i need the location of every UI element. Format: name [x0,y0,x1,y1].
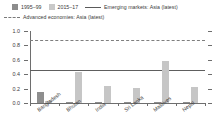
legend-item-emerging-markets: Emerging markets: Asia (latest) [85,4,178,10]
legend-label-emerging-markets: Emerging markets: Asia (latest) [104,4,178,10]
legend-item-advanced-economies: Advanced economies: Asia (latest) [4,14,104,20]
legend-solid-line-icon [85,7,101,8]
reference-line-advanced-economies [30,40,205,41]
x-tick-mark [88,103,89,106]
y-tick-mark-right [208,31,212,32]
x-tick-mark [205,103,206,106]
y-tick-mark-right [208,45,212,46]
y-tick-label: 0.8 [6,42,20,48]
legend-row-2: Advanced economies: Asia (latest) [4,14,111,20]
legend-row-1: 1995–99 2015–17 Emerging markets: Asia (… [12,4,185,10]
y-tick-mark [24,31,28,32]
y-tick-mark-right [208,60,212,61]
legend-dashed-line-icon [4,17,20,18]
legend-label-1995-99: 1995–99 [21,4,42,10]
legend-swatch-square-light-icon [49,4,55,10]
y-tick-label: 1.0 [6,28,20,34]
y-tick-mark-right [208,89,212,90]
y-tick-mark-right [208,74,212,75]
chart-figure: 1995–99 2015–17 Emerging markets: Asia (… [0,0,214,138]
y-tick-label: 0.6 [6,57,20,63]
y-tick-label: 0.2 [6,86,20,92]
x-tick-mark [59,103,60,106]
legend-label-2015-17: 2015–17 [58,4,79,10]
y-tick-mark [24,74,28,75]
legend-swatch-square-dark-icon [12,4,18,10]
reference-line-emerging-markets [30,70,205,71]
y-tick-mark [24,103,28,104]
x-tick-mark [118,103,119,106]
y-tick-label: 0.0 [6,100,20,106]
legend-label-advanced-economies: Advanced economies: Asia (latest) [23,14,104,20]
legend-item-1995-99: 1995–99 [12,4,42,10]
x-tick-mark [147,103,148,106]
y-tick-mark [24,89,28,90]
legend-item-2015-17: 2015–17 [49,4,79,10]
x-tick-mark [176,103,177,106]
y-tick-label: 0.4 [6,71,20,77]
x-tick-mark [30,103,31,106]
y-tick-mark-right [208,103,212,104]
chart-legend: 1995–99 2015–17 Emerging markets: Asia (… [0,0,214,26]
y-tick-mark [24,45,28,46]
bar [104,86,111,103]
y-tick-mark [24,60,28,61]
